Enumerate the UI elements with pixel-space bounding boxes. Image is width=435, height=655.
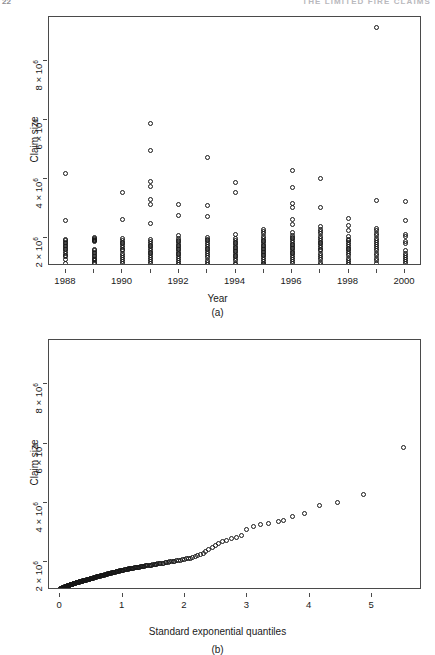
- x-tick: [263, 269, 264, 273]
- panel-caption-b: (b): [0, 644, 435, 655]
- x-tick-label: 0: [57, 599, 62, 610]
- x-tick: [122, 593, 123, 597]
- data-point: [148, 202, 153, 207]
- data-point: [290, 514, 295, 519]
- data-point: [290, 261, 295, 264]
- x-tick-label: 3: [244, 599, 249, 610]
- x-tick: [376, 269, 377, 273]
- y-tick-label: 2 × 106: [32, 561, 44, 591]
- data-point: [335, 500, 340, 505]
- data-point: [233, 180, 238, 185]
- data-point: [290, 205, 295, 210]
- figure-panel-b: 0123452 × 1064 × 1066 × 1068 × 106 Claim…: [0, 320, 435, 655]
- data-point: [148, 184, 153, 189]
- x-axis-title-a: Year: [0, 293, 435, 304]
- data-point: [401, 445, 406, 450]
- y-axis-title-b: Claim size: [29, 433, 40, 493]
- y-tick-label: 8 × 106: [32, 383, 44, 413]
- data-point: [276, 519, 281, 524]
- x-tick-label: 1988: [54, 275, 75, 286]
- plot-frame-b: [48, 339, 421, 589]
- x-tick-label: 2000: [393, 275, 414, 286]
- y-axis-title-a: Claim size: [29, 109, 40, 169]
- x-tick: [348, 269, 349, 273]
- data-point: [148, 261, 153, 264]
- x-tick: [246, 593, 247, 597]
- data-point: [205, 155, 210, 160]
- x-tick: [235, 269, 236, 273]
- data-point: [63, 261, 68, 264]
- x-tick-label: 1992: [167, 275, 188, 286]
- data-point: [92, 239, 97, 244]
- x-axis-title-b: Standard exponential quantiles: [0, 626, 435, 637]
- data-point: [318, 176, 323, 181]
- y-tick-label: 4 × 106: [32, 178, 44, 208]
- data-point: [290, 185, 295, 190]
- x-tick: [121, 269, 122, 273]
- x-tick-label: 5: [368, 599, 373, 610]
- x-tick: [371, 593, 372, 597]
- data-point: [205, 262, 210, 264]
- x-tick-label: 1990: [111, 275, 132, 286]
- x-tick: [206, 269, 207, 273]
- data-point: [63, 218, 68, 223]
- data-point: [244, 527, 249, 532]
- data-point: [233, 190, 238, 195]
- x-tick: [291, 269, 292, 273]
- x-tick: [184, 593, 185, 597]
- data-point: [205, 214, 210, 219]
- data-point: [346, 262, 351, 264]
- data-point: [346, 216, 351, 221]
- data-point: [239, 533, 244, 538]
- plot-frame-a: [48, 16, 421, 265]
- data-point: [176, 213, 181, 218]
- data-point: [403, 261, 408, 264]
- data-point: [148, 121, 153, 126]
- data-point: [374, 25, 379, 30]
- figure-panel-a: 19881990199219941996199820002 × 1064 × 1…: [0, 0, 435, 320]
- data-point: [120, 217, 125, 222]
- data-point: [261, 262, 266, 264]
- data-point: [318, 205, 323, 210]
- x-tick-label: 4: [306, 599, 311, 610]
- data-point: [290, 168, 295, 173]
- data-point: [234, 535, 239, 540]
- data-point: [148, 221, 153, 226]
- data-point: [403, 234, 408, 239]
- data-point: [266, 521, 271, 526]
- data-point: [281, 518, 286, 523]
- data-point: [63, 171, 68, 176]
- x-tick-label: 1998: [337, 275, 358, 286]
- plot-area-b: [49, 340, 420, 588]
- data-point: [290, 222, 295, 227]
- x-tick-label: 2: [181, 599, 186, 610]
- data-point: [346, 228, 351, 233]
- x-tick: [309, 593, 310, 597]
- data-point: [92, 261, 97, 264]
- x-tick-label: 1: [119, 599, 124, 610]
- x-tick: [65, 269, 66, 273]
- x-tick: [178, 269, 179, 273]
- x-tick: [150, 269, 151, 273]
- data-point: [176, 202, 181, 207]
- y-tick-label: 8 × 106: [32, 60, 44, 90]
- data-point: [120, 261, 125, 264]
- data-point: [403, 241, 408, 246]
- data-point: [251, 524, 256, 529]
- data-point: [302, 511, 307, 516]
- data-point: [374, 261, 379, 264]
- y-tick-label: 2 × 106: [32, 237, 44, 267]
- y-tick-label: 4 × 106: [32, 502, 44, 532]
- data-point: [403, 199, 408, 204]
- x-tick: [319, 269, 320, 273]
- data-point: [317, 503, 322, 508]
- plot-area-a: [49, 17, 420, 264]
- data-point: [233, 262, 238, 264]
- data-point: [120, 190, 125, 195]
- x-tick-label: 1994: [224, 275, 245, 286]
- x-tick: [404, 269, 405, 273]
- data-point: [258, 522, 263, 527]
- data-point: [205, 203, 210, 208]
- data-point: [374, 198, 379, 203]
- data-point: [361, 492, 366, 497]
